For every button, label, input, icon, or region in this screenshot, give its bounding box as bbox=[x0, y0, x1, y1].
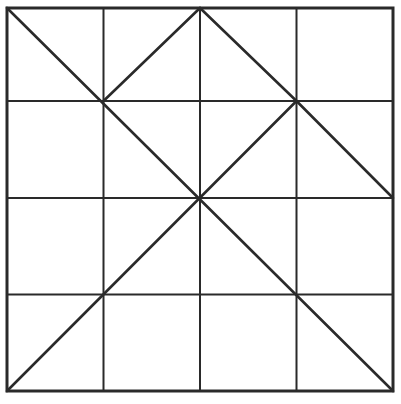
diagonal-3-1-to-4-2 bbox=[297, 101, 394, 198]
anti-diagonal-3-1-to-0-4 bbox=[7, 101, 297, 391]
grid-diagram bbox=[0, 0, 401, 404]
diagonal-1-1-to-2-0 bbox=[104, 8, 201, 101]
diagonal-2-0-to-3-1 bbox=[200, 8, 297, 101]
